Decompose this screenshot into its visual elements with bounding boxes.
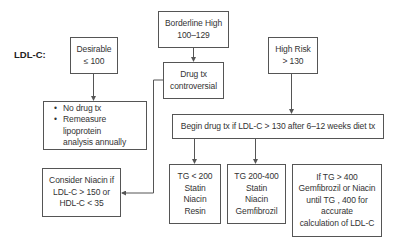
node-tg-gt-400: If TG > 400 Gemfibrozil or Niacin until … (292, 164, 382, 237)
node-tg-gt-400-line-3: until TG , 400 for (306, 195, 367, 207)
node-tg-gt-400-line-2: Gemfibrozil or Niacin (299, 183, 376, 195)
node-desirable-line-1: Desirable (76, 44, 111, 56)
node-tg-200-400-line-3: Niacin (245, 194, 268, 206)
bullet-item: • No drug tx (54, 103, 101, 115)
node-tg-lt-200-line-4: Resin (184, 206, 205, 218)
bullet-spacer (54, 137, 63, 149)
node-begin-drug-text: Begin drug tx if LDL-C > 130 after 6–12 … (181, 121, 375, 133)
bullet-icon: • (54, 114, 63, 137)
node-consider-line-2: LDL-C > 150 or (53, 187, 110, 199)
bullet-item: • Remeasure lipoprotein (54, 114, 146, 137)
node-desirable-line-2: ≤ 100 (84, 56, 105, 68)
node-tg-gt-400-line-1: If TG > 400 (316, 172, 358, 184)
node-borderline-line-2: 100–129 (177, 30, 209, 42)
node-drug-controversial-line-1: Drug tx (180, 69, 207, 81)
node-desirable: Desirable ≤ 100 (70, 37, 118, 74)
node-tg-lt-200: TG < 200 Statin Niacin Resin (169, 164, 221, 224)
node-consider-niacin: Consider Niacin if LDL-C > 150 or HDL-C … (42, 168, 121, 217)
node-borderline-line-1: Borderline High (165, 18, 222, 30)
node-tg-gt-400-line-4: accurate (321, 206, 353, 218)
bullet-icon: • (54, 103, 63, 115)
bullet-text: No drug tx (63, 103, 101, 115)
node-tg-lt-200-line-3: Niacin (183, 194, 206, 206)
node-high-risk-line-1: High Risk (275, 44, 310, 56)
node-borderline-high: Borderline High 100–129 (158, 11, 229, 48)
node-tg-lt-200-line-2: Statin (184, 183, 205, 195)
node-tg-gt-400-line-5: calculation of LDL-C (300, 218, 375, 230)
node-high-risk: High Risk > 130 (268, 37, 318, 74)
node-drug-controversial-line-2: controversial (170, 81, 217, 93)
ldl-c-label: LDL-C: (14, 49, 46, 60)
node-no-drug: • No drug tx • Remeasure lipoprotein ana… (43, 101, 147, 150)
bullet-text: Remeasure lipoprotein (63, 114, 146, 137)
node-tg-200-400-line-4: Gemfibrozil (236, 206, 278, 218)
node-consider-line-1: Consider Niacin if (49, 175, 114, 187)
node-begin-drug: Begin drug tx if LDL-C > 130 after 6–12 … (172, 114, 384, 139)
node-tg-lt-200-line-1: TG < 200 (178, 171, 213, 183)
node-consider-line-3: HDL-C < 35 (59, 198, 103, 210)
node-high-risk-line-2: > 130 (282, 56, 303, 68)
node-tg-200-400-line-2: Statin (246, 183, 267, 195)
node-drug-controversial: Drug tx controversial (163, 62, 224, 99)
bullet-item-continuation: analysis annually (54, 137, 126, 149)
node-tg-200-400-line-1: TG 200-400 (234, 171, 278, 183)
bullet-text: analysis annually (63, 137, 126, 149)
node-tg-200-400: TG 200-400 Statin Niacin Gemfibrozil (227, 164, 286, 224)
